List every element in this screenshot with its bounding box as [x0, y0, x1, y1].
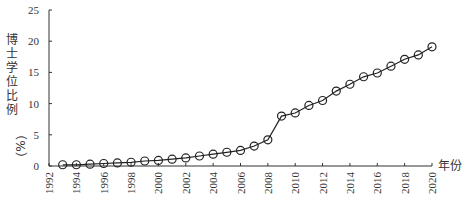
x-tick-label: 2006: [235, 172, 247, 195]
x-tick-label: 2018: [399, 172, 411, 195]
x-tick-label: 2010: [289, 172, 301, 195]
data-series: [59, 43, 436, 169]
x-tick-label: 2016: [371, 172, 383, 195]
y-axis-unit: （%）: [13, 128, 27, 163]
y-tick-label: 20: [28, 35, 40, 47]
x-tick-label: 2000: [152, 172, 164, 195]
x-tick-label: 2008: [262, 172, 274, 195]
y-tick-label: 25: [28, 4, 40, 16]
x-tick-label: 2014: [344, 172, 356, 195]
y-axis-title: 博士学位比例（%）: [6, 32, 27, 164]
x-tick-label: 2012: [317, 172, 329, 194]
y-tick-label: 0: [34, 160, 40, 172]
y-axis: 0510152025: [28, 4, 52, 172]
x-tick-label: 1992: [43, 172, 55, 194]
line-chart: 0510152025 19921994199619982000200220042…: [0, 0, 462, 207]
x-tick-label: 2002: [180, 172, 192, 194]
y-axis-title-char: 博: [6, 32, 18, 47]
x-tick-label: 1998: [125, 172, 137, 195]
x-axis-title: 年份: [438, 159, 462, 173]
y-axis-title-char: 位: [6, 74, 18, 89]
y-axis-title-char: 学: [6, 60, 18, 75]
y-axis-title-char: 比: [6, 89, 18, 103]
y-tick-label: 10: [28, 98, 40, 110]
y-axis-title-char: 士: [6, 47, 18, 61]
y-axis-title-char: 例: [6, 103, 18, 117]
x-tick-label: 1994: [70, 172, 82, 195]
x-tick-label: 1996: [98, 172, 110, 195]
y-tick-label: 15: [28, 66, 40, 78]
x-tick-label: 2020: [426, 172, 438, 195]
y-tick-label: 5: [34, 129, 40, 141]
x-tick-label: 2004: [207, 172, 219, 195]
